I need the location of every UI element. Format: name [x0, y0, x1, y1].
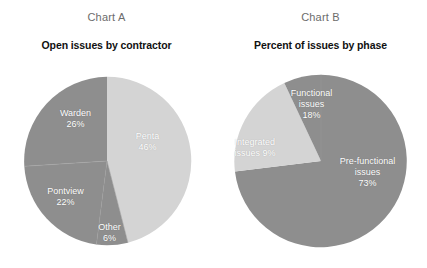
chart-a-label-pontview: Pontview 22%	[35, 186, 97, 208]
chart-a-pie: Warden 26% Penta 46% Pontview 22% Other …	[21, 64, 193, 258]
chart-a-panel: Chart A Open issues by contractor Warden…	[0, 0, 213, 268]
chart-a-label: Chart A	[0, 11, 213, 23]
chart-b-label-prefunctional: Pre-functional issues 73%	[329, 156, 407, 189]
chart-b-pie: Functional issues 18% Integrated issues …	[233, 64, 409, 258]
chart-b-label: Chart B	[214, 11, 427, 23]
chart-b-label-integrated: Integrated issues 9%	[235, 137, 313, 159]
charts-page: Chart A Open issues by contractor Warden…	[0, 0, 427, 268]
chart-b-label-functional: Functional issues 18%	[276, 88, 348, 121]
chart-b-title: Percent of issues by phase	[214, 39, 427, 51]
chart-a-label-other: Other 6%	[88, 222, 132, 244]
chart-a-title: Open issues by contractor	[0, 39, 213, 51]
chart-a-label-warden: Warden 26%	[47, 108, 105, 130]
chart-a-label-penta: Penta 46%	[124, 131, 172, 153]
chart-b-panel: Chart B Percent of issues by phase Funct…	[214, 0, 427, 268]
